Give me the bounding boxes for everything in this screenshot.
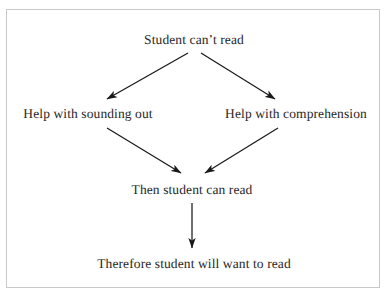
arrow-right-to-middle — [205, 128, 278, 173]
diagram-root: Student can’t read Help with sounding ou… — [0, 0, 389, 299]
node-help-with-comprehension: Help with comprehension — [225, 107, 367, 121]
node-help-with-sounding-out: Help with sounding out — [23, 107, 152, 121]
arrow-top-to-right — [201, 53, 275, 99]
node-then-student-can-read: Then student can read — [132, 183, 253, 197]
node-student-cant-read: Student can’t read — [144, 33, 244, 47]
node-therefore-student-will-want-to-read: Therefore student will want to read — [97, 257, 291, 271]
arrow-left-to-middle — [107, 128, 181, 173]
arrow-top-to-left — [107, 53, 188, 99]
